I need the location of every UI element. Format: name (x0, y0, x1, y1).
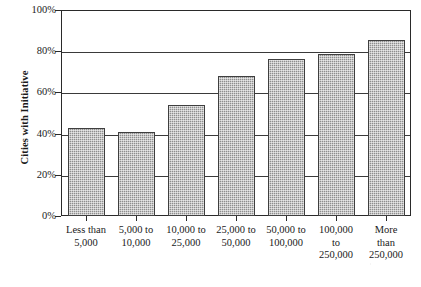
x-axis-tick-label-line: 10,000 to (161, 224, 211, 237)
x-axis-tick-mark (286, 216, 287, 221)
bar (168, 105, 205, 216)
x-axis-tick-label: 5,000 to10,000 (111, 224, 161, 249)
x-axis-tick-label: 10,000 to25,000 (161, 224, 211, 249)
x-axis-tick-label-line: 250,000 (311, 249, 361, 262)
x-axis-tick-label-line: 50,000 to (261, 224, 311, 237)
bar-chart: Cities with Initiative 0%20%40%60%80%100… (0, 0, 421, 287)
x-axis-tick-label-line: 10,000 (111, 237, 161, 250)
y-axis-tick-label: 100% (14, 5, 56, 16)
x-axis-tick-label-line: 5,000 to (111, 224, 161, 237)
x-axis-tick-label-line: 250,000 (361, 249, 411, 262)
bar (118, 132, 155, 216)
y-axis-tick-label: 80% (14, 46, 56, 57)
bar (68, 128, 105, 216)
bar-series (61, 10, 411, 216)
x-axis-tick-label-line: 100,000 (311, 224, 361, 237)
x-axis-tick-labels: Less than5,0005,000 to10,00010,000 to25,… (61, 224, 411, 282)
x-axis-tick-mark (86, 216, 87, 221)
x-axis-tick-label-line: than (361, 237, 411, 250)
x-axis-tick-label: 25,000 to50,000 (211, 224, 261, 249)
bar (218, 76, 255, 216)
bar (318, 54, 355, 216)
x-axis-tick-label-line: More (361, 224, 411, 237)
bar (368, 40, 405, 216)
x-axis-tick-mark (236, 216, 237, 221)
y-axis-tick-label: 40% (14, 128, 56, 139)
y-axis-tick-label: 60% (14, 87, 56, 98)
x-axis-tick-label: 50,000 to100,000 (261, 224, 311, 249)
x-axis-tick-label-line: 25,000 to (211, 224, 261, 237)
y-axis-tick-label: 0% (14, 211, 56, 222)
y-axis-tick-mark (55, 216, 61, 217)
x-axis-tick-label-line: 25,000 (161, 237, 211, 250)
x-axis-tick-label: Morethan250,000 (361, 224, 411, 262)
x-axis-tick-label: Less than5,000 (61, 224, 111, 249)
x-axis-tick-mark (336, 216, 337, 221)
x-axis-tick-label-line: 100,000 (261, 237, 311, 250)
x-axis-tick-label: 100,000to250,000 (311, 224, 361, 262)
x-axis-tick-label-line: 50,000 (211, 237, 261, 250)
y-axis-tick-label: 20% (14, 170, 56, 181)
x-axis-tick-mark (386, 216, 387, 221)
x-axis-tick-label-line: 5,000 (61, 237, 111, 250)
y-axis-tick-labels: 0%20%40%60%80%100% (14, 0, 56, 287)
bar (268, 59, 305, 216)
x-axis-tick-mark (186, 216, 187, 221)
x-axis-tick-mark (136, 216, 137, 221)
x-axis-tick-label-line: Less than (61, 224, 111, 237)
x-axis-tick-label-line: to (311, 237, 361, 250)
